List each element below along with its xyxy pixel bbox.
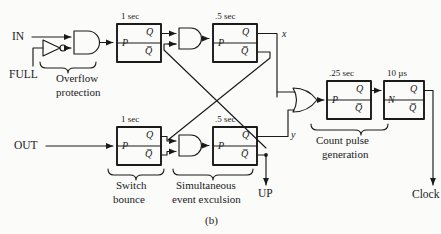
wire-clock: [424, 91, 433, 186]
ff-bot-1-trigger: P: [122, 141, 128, 151]
ff-top-2-trigger: P: [218, 38, 224, 48]
wire-x: [257, 34, 277, 98]
annotation-simultaneous-line1: Simultaneous: [176, 180, 236, 191]
ff-bot-1-timing: 1 sec: [121, 115, 139, 124]
signal-label-x: x: [282, 29, 286, 39]
ff-count-1-q: Q: [356, 84, 363, 94]
annotation-overflow-line2: protection: [56, 87, 101, 98]
output-label-up: UP: [258, 188, 273, 200]
ff-bot-1-q: Q: [146, 130, 153, 140]
ff-count-1-trigger: P: [332, 95, 338, 105]
ff-count-2-trigger: N: [388, 95, 395, 105]
ff-count-1-timing: .25 sec: [329, 69, 354, 78]
ff-top-2-timing: .5 sec: [215, 12, 236, 21]
signal-label-y: y: [291, 130, 295, 140]
or-merge-icon: [293, 88, 317, 112]
annotation-countpulse-line1: Count pulse: [316, 135, 369, 146]
ff-bot-2-qbar: Q̅: [241, 149, 248, 159]
ff-bot-1-qbar: Q̅: [145, 149, 152, 159]
annotation-overflow-line1: Overflow: [56, 73, 98, 84]
input-label-full: FULL: [9, 69, 38, 81]
wire-up: [257, 155, 266, 185]
figure-caption: (b): [205, 215, 218, 226]
ff-bot-2-trigger: P: [218, 141, 224, 151]
input-label-in: IN: [12, 31, 24, 43]
annotation-switch-line1: Switch: [116, 180, 147, 191]
ff-top-2-qbar: Q̅: [241, 46, 248, 56]
ff-bot-2-timing: .5 sec: [215, 115, 236, 124]
input-label-out: OUT: [14, 140, 38, 152]
ff-top-1-trigger: P: [122, 38, 128, 48]
ff-count-2-qbar: Q̅: [409, 103, 416, 113]
ff-top-1-q: Q: [146, 27, 153, 37]
ff-top-2-q: Q: [242, 27, 249, 37]
output-label-clock: Clock: [412, 189, 439, 201]
ff-bot-2-q: Q: [242, 130, 249, 140]
and-overflow-icon: [74, 31, 100, 54]
annotation-countpulse-line2: generation: [322, 149, 368, 160]
ff-top-1-qbar: Q̅: [145, 46, 152, 56]
junction-dots: [264, 153, 268, 157]
annotation-switch-line2: bounce: [113, 194, 145, 205]
annotation-simultaneous-line2: event exculsion: [172, 194, 241, 205]
ff-top-1-timing: 1 sec: [121, 12, 139, 21]
inverter-full-icon: [43, 40, 66, 56]
wire-ffbot1-qbar: [161, 152, 176, 156]
wire-y: [257, 110, 294, 137]
ff-count-1-qbar: Q̅: [355, 103, 362, 113]
ff-count-2-q: Q: [410, 84, 417, 94]
and-top-icon: [179, 28, 202, 49]
and-bottom-icon: [179, 135, 202, 156]
wire-cross-bottom-to-andtop: [164, 44, 266, 148]
ff-count-2-timing: 10 µs: [387, 69, 407, 78]
wire-full: [33, 48, 43, 66]
